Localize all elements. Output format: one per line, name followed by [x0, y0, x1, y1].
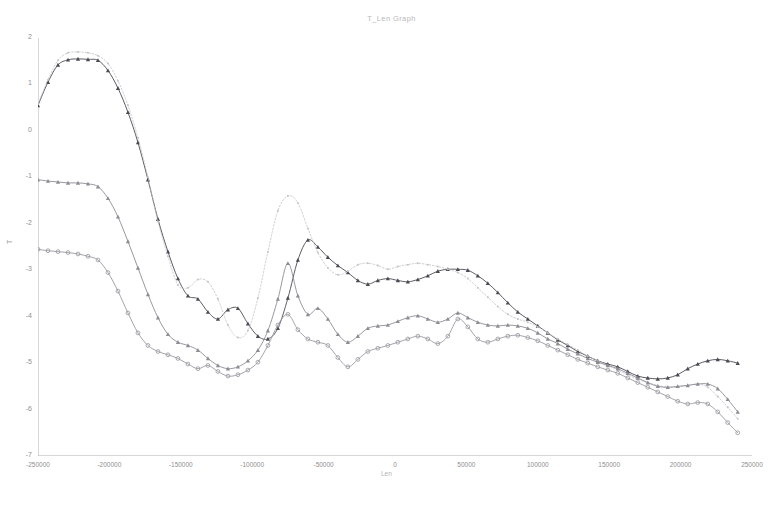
x-tick-label: 150000: [579, 461, 639, 468]
x-tick-label: 100000: [508, 461, 568, 468]
data-point-marker: [67, 52, 69, 54]
data-point-marker: [546, 337, 550, 341]
data-point-marker: [536, 331, 540, 335]
data-point-marker: [507, 313, 509, 315]
data-point-marker: [187, 287, 189, 289]
data-point-marker: [286, 296, 290, 300]
y-tick-label: 2: [4, 33, 32, 40]
data-point-marker: [126, 239, 130, 243]
x-axis-label: Len: [381, 470, 392, 477]
data-point-marker: [527, 321, 529, 323]
data-point-marker: [307, 227, 309, 229]
data-point-marker: [517, 318, 519, 320]
data-point-marker: [207, 281, 209, 283]
x-tick-label: 0: [365, 461, 425, 468]
data-point-marker: [87, 52, 89, 54]
y-tick-label: -1: [4, 172, 32, 179]
data-point-marker: [96, 185, 100, 189]
data-point-marker: [247, 330, 249, 332]
data-point-marker: [157, 220, 159, 222]
data-point-marker: [477, 287, 479, 289]
data-point-marker: [276, 297, 280, 301]
data-point-marker: [327, 267, 329, 269]
data-point-marker: [277, 210, 279, 212]
data-point-marker: [297, 202, 299, 204]
data-point-marker: [537, 326, 539, 328]
data-point-marker: [497, 305, 499, 307]
data-point-marker: [136, 266, 140, 270]
data-point-marker: [296, 294, 300, 298]
x-tick-label: -250000: [8, 461, 68, 468]
data-point-marker: [457, 272, 459, 274]
series-series-1-triangle-dark: [38, 57, 740, 381]
data-point-marker: [226, 308, 230, 312]
x-tick-label: -50000: [294, 461, 354, 468]
data-point-marker: [577, 349, 579, 351]
data-point-marker: [566, 347, 570, 351]
chart-title: T_Len Graph: [0, 14, 783, 23]
data-point-marker: [177, 284, 179, 286]
y-tick-label: -2: [4, 219, 32, 226]
data-point-marker: [476, 274, 480, 278]
x-tick-label: 200000: [651, 461, 711, 468]
data-point-marker: [567, 344, 569, 346]
data-point-marker: [146, 292, 150, 296]
data-point-marker: [447, 268, 449, 270]
data-point-marker: [217, 298, 219, 300]
data-point-marker: [466, 316, 470, 320]
data-point-marker: [216, 363, 220, 367]
data-point-marker: [176, 340, 180, 344]
y-tick-label: -7: [4, 451, 32, 458]
data-point-marker: [57, 59, 59, 61]
data-point-marker: [236, 306, 240, 310]
data-point-marker: [446, 317, 450, 321]
data-point-marker: [557, 338, 559, 340]
series-series-4-circle: [38, 247, 740, 434]
plot-area: [38, 38, 752, 456]
data-point-marker: [137, 137, 139, 139]
data-point-marker: [127, 104, 129, 106]
data-point-marker: [167, 255, 169, 257]
data-point-marker: [676, 373, 680, 377]
data-point-marker: [237, 337, 239, 339]
data-point-marker: [117, 80, 119, 82]
chart-svg: [38, 38, 752, 456]
data-point-marker: [257, 297, 259, 299]
series-series-2-light-dotted: [38, 51, 739, 420]
data-point-marker: [77, 51, 79, 53]
y-tick-label: 0: [4, 126, 32, 133]
data-point-marker: [116, 86, 120, 90]
data-point-marker: [407, 264, 409, 266]
data-point-marker: [727, 406, 729, 408]
data-point-marker: [227, 324, 229, 326]
data-point-marker: [287, 195, 289, 197]
series-series-3-triangle-mid: [38, 178, 740, 414]
data-point-marker: [296, 258, 300, 262]
data-point-marker: [427, 264, 429, 266]
data-point-marker: [147, 176, 149, 178]
x-tick-label: -150000: [151, 461, 211, 468]
data-point-marker: [266, 337, 270, 341]
data-point-marker: [47, 79, 49, 81]
data-point-marker: [267, 251, 269, 253]
data-point-marker: [347, 270, 349, 272]
data-point-marker: [197, 279, 199, 281]
x-tick-label: -200000: [79, 461, 139, 468]
y-tick-label: -3: [4, 265, 32, 272]
data-point-marker: [377, 265, 379, 267]
y-tick-label: 1: [4, 79, 32, 86]
data-point-marker: [397, 266, 399, 268]
y-tick-label: -5: [4, 358, 32, 365]
data-point-marker: [156, 316, 160, 320]
data-point-marker: [467, 278, 469, 280]
data-point-marker: [266, 329, 270, 333]
data-point-marker: [176, 276, 180, 280]
data-point-marker: [387, 268, 389, 270]
data-point-marker: [367, 262, 369, 264]
data-point-marker: [426, 274, 430, 278]
x-tick-label: 250000: [722, 461, 782, 468]
data-point-marker: [116, 215, 120, 219]
x-tick-label: -100000: [222, 461, 282, 468]
data-point-marker: [737, 418, 739, 420]
data-point-marker: [317, 252, 319, 254]
